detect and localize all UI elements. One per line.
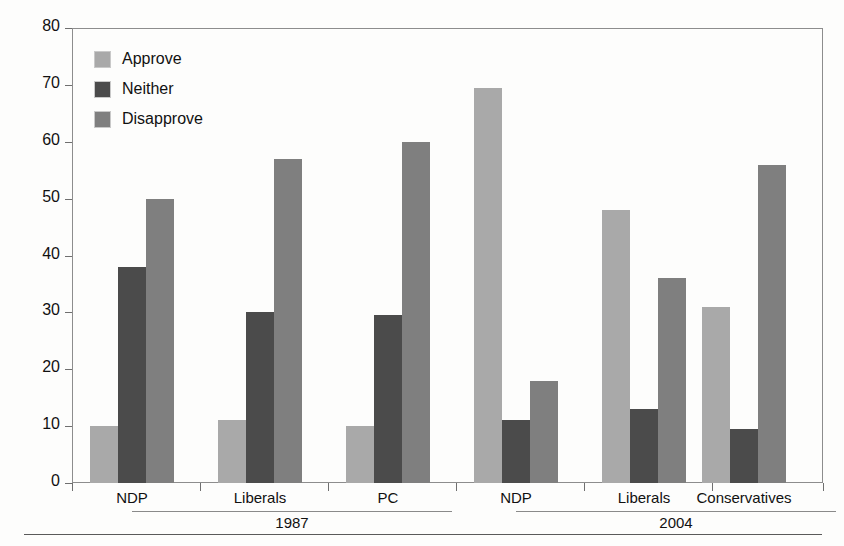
- x-axis-group-label: PC: [318, 489, 458, 506]
- y-tick-mark: [65, 85, 72, 86]
- y-tick-mark: [65, 142, 72, 143]
- chart-figure: Percent 80706050403020100 NDPLiberalsPCN…: [0, 0, 844, 546]
- legend-label: Neither: [122, 80, 174, 98]
- disapprove-swatch: [94, 111, 111, 128]
- bar: [502, 420, 530, 483]
- bar: [474, 88, 502, 483]
- x-axis-group-label: Liberals: [190, 489, 330, 506]
- era-label: 2004: [616, 514, 736, 531]
- bar: [658, 278, 686, 483]
- y-tick-label: 10: [42, 415, 60, 433]
- legend-label: Approve: [122, 50, 182, 68]
- bar: [702, 307, 730, 483]
- bar: [246, 312, 274, 483]
- chart-legend: ApproveNeitherDisapprove: [94, 44, 203, 134]
- y-axis-tick: 10: [0, 426, 72, 427]
- era-bracket-rule: [132, 511, 452, 512]
- y-axis-tick: 70: [0, 85, 72, 86]
- y-axis-tick: 80: [0, 28, 72, 29]
- bar: [630, 409, 658, 483]
- y-tick-mark: [65, 312, 72, 313]
- y-axis-tick: 0: [0, 483, 72, 484]
- bar: [730, 429, 758, 483]
- y-tick-mark: [65, 426, 72, 427]
- y-tick-label: 0: [51, 472, 60, 490]
- era-label: 1987: [232, 514, 352, 531]
- y-tick-label: 20: [42, 358, 60, 376]
- y-tick-mark: [65, 28, 72, 29]
- neither-swatch: [94, 81, 111, 98]
- bar: [374, 315, 402, 483]
- bar: [758, 165, 786, 484]
- y-axis-tick: 40: [0, 256, 72, 257]
- bar: [118, 267, 146, 483]
- y-tick-label: 30: [42, 301, 60, 319]
- bar: [90, 426, 118, 483]
- y-tick-label: 50: [42, 188, 60, 206]
- y-tick-mark: [65, 369, 72, 370]
- y-axis-tick: 30: [0, 312, 72, 313]
- bar: [274, 159, 302, 483]
- y-tick-label: 70: [42, 74, 60, 92]
- y-tick-label: 80: [42, 17, 60, 35]
- bar: [602, 210, 630, 483]
- y-axis-tick: 50: [0, 199, 72, 200]
- y-tick-mark: [65, 483, 72, 484]
- figure-bottom-rule: [24, 534, 822, 535]
- approve-swatch: [94, 51, 111, 68]
- x-axis-tick: [823, 483, 824, 491]
- legend-item: Disapprove: [94, 104, 203, 134]
- legend-item: Neither: [94, 74, 203, 104]
- y-tick-label: 40: [42, 245, 60, 263]
- bar: [530, 381, 558, 483]
- bar: [218, 420, 246, 483]
- era-bracket-rule: [516, 511, 836, 512]
- y-axis-tick: 60: [0, 142, 72, 143]
- y-axis-tick: 20: [0, 369, 72, 370]
- y-tick-label: 60: [42, 131, 60, 149]
- y-tick-mark: [65, 199, 72, 200]
- bar: [146, 199, 174, 483]
- x-axis-group-label: NDP: [446, 489, 586, 506]
- legend-label: Disapprove: [122, 110, 203, 128]
- x-axis-group-label: NDP: [62, 489, 202, 506]
- bar: [346, 426, 374, 483]
- legend-item: Approve: [94, 44, 203, 74]
- bar: [402, 142, 430, 483]
- y-tick-mark: [65, 256, 72, 257]
- x-axis-group-label: Conservatives: [674, 489, 814, 506]
